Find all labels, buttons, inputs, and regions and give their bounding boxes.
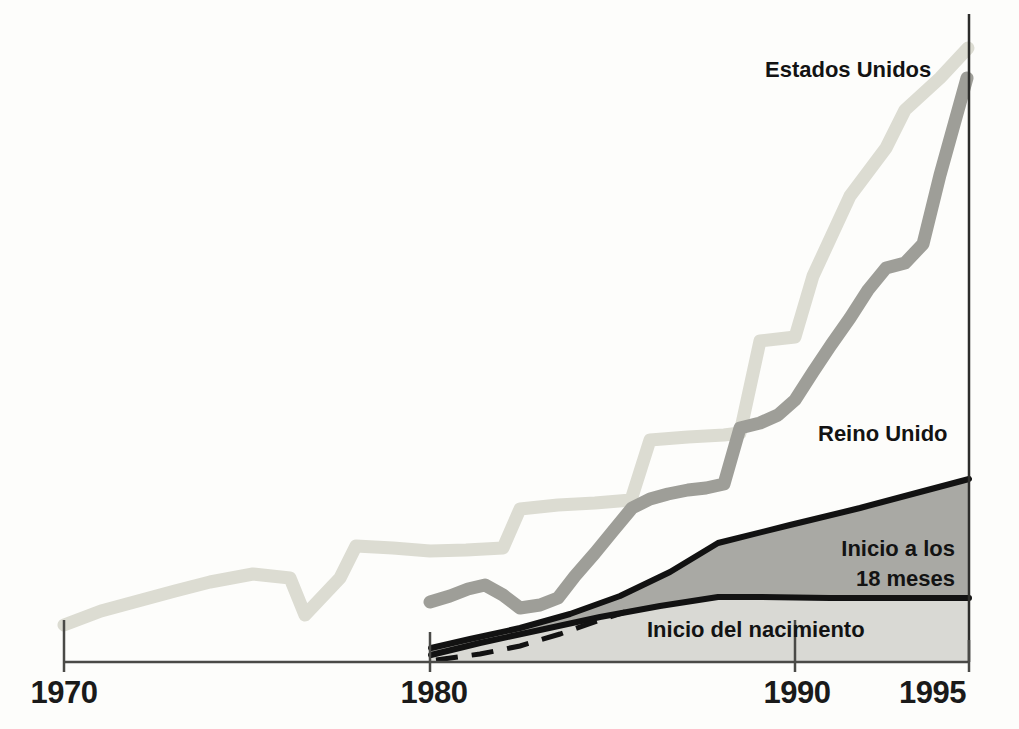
label-estados-unidos: Estados Unidos [765,57,931,82]
label-reino-unido: Reino Unido [818,421,948,446]
chart-container: 1970 1980 1990 1995 Estados Unidos Reino… [0,0,1019,729]
x-tick-label-1970: 1970 [31,675,98,710]
label-inicio-nacimiento: Inicio del nacimiento [647,617,865,642]
label-inicio-18-meses-line2: 18 meses [856,566,955,591]
label-inicio-18-meses-line1: Inicio a los [841,536,955,561]
x-tick-label-1990: 1990 [764,675,831,710]
line-chart: 1970 1980 1990 1995 Estados Unidos Reino… [0,0,1019,729]
x-tick-label-1980: 1980 [401,675,468,710]
x-tick-label-1995: 1995 [899,675,966,710]
